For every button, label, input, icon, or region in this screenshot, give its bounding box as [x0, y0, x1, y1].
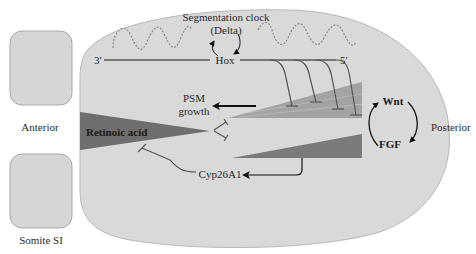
posterior-label: Posterior — [431, 121, 471, 133]
psm-label: PSM — [183, 92, 205, 104]
anterior-label: Anterior — [21, 121, 59, 133]
hox-label: Hox — [216, 54, 235, 66]
somitogenesis-diagram: Segmentation clock (Delta) Hox 3′ 5′ PSM… — [0, 0, 476, 254]
segmentation-clock-label: Segmentation clock — [182, 11, 270, 23]
somite-anterior-top — [10, 31, 72, 105]
somite-si-label: Somite SI — [19, 234, 63, 246]
fgf-label: FGF — [379, 138, 401, 150]
somite-si — [10, 154, 72, 228]
five-prime-label: 5′ — [340, 54, 348, 66]
retinoic-acid-label: Retinoic acid — [86, 126, 147, 138]
three-prime-label: 3′ — [94, 54, 102, 66]
cyp26a1-label: Cyp26A1 — [199, 168, 242, 180]
wnt-label: Wnt — [383, 95, 404, 107]
growth-label: growth — [178, 105, 210, 117]
delta-label: (Delta) — [210, 24, 241, 37]
